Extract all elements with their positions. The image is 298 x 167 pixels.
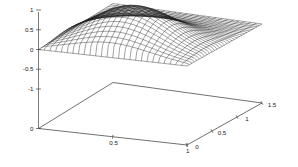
z-tick-label-3: -0.5 (23, 65, 34, 72)
x-tick-label-1: 1 (186, 147, 190, 154)
y-tick-label-0: 0 (195, 143, 199, 150)
base-plane-outline (39, 83, 263, 146)
base-plane (39, 83, 263, 146)
mesh-plot-figure: 10.50-0.5-100.5100.511.5 (0, 0, 298, 167)
x-tick-label-0: 0.5 (109, 139, 118, 146)
plot-canvas: 10.50-0.5-100.5100.511.5 (0, 0, 298, 167)
surface-mesh (39, 4, 263, 67)
y-tick-label-1: 0.5 (218, 129, 227, 136)
z-tick-label-4: -1 (28, 85, 34, 92)
z-tick-label-1: 0.5 (25, 26, 34, 33)
z-tick-label-2: 0 (30, 46, 34, 53)
z-tick-label-5: 0 (30, 125, 34, 132)
y-tick-label-3: 1.5 (268, 101, 277, 108)
y-tick-label-2: 1 (245, 115, 249, 122)
z-tick-label-0: 1 (30, 6, 34, 13)
